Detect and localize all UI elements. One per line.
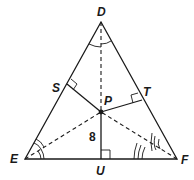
label-d: D <box>97 5 106 19</box>
measure-pu: 8 <box>89 130 96 144</box>
angle-arc-f-6 <box>151 133 152 151</box>
angle-arc-d-left <box>89 44 101 47</box>
incenter-diagram: D E F P S T U 8 <box>0 0 194 180</box>
label-s: S <box>52 81 60 95</box>
angle-arc-e-outer-1 <box>34 143 41 149</box>
label-p: P <box>104 94 113 108</box>
angle-arc-f-3 <box>134 143 137 159</box>
angle-arc-f-1 <box>142 147 145 159</box>
angle-arc-e-inner-1 <box>38 151 41 159</box>
segment-ps <box>67 84 101 112</box>
point-p-dot <box>99 110 104 115</box>
angle-arc-e-inner-2 <box>41 149 44 159</box>
angle-arc-f-5 <box>154 136 156 150</box>
right-angle-u <box>101 150 110 159</box>
angle-arc-d-right <box>101 41 111 44</box>
label-u: U <box>96 164 105 178</box>
angle-arc-f-2 <box>138 145 141 159</box>
label-e: E <box>10 152 19 166</box>
label-t: T <box>143 85 152 99</box>
angle-arc-e-outer-2 <box>36 139 44 147</box>
label-f: F <box>181 153 189 167</box>
